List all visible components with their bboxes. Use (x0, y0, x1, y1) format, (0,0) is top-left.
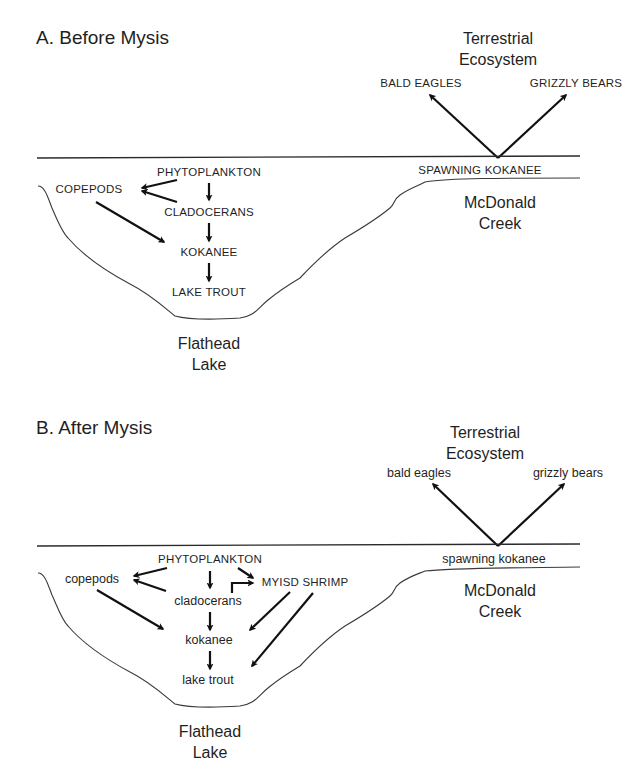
arrow-phyto-to-copepods (134, 568, 167, 576)
arrow-kokanee-to-bears (498, 95, 566, 158)
terrestrial-label: Terrestrial (463, 30, 533, 47)
arrow-copepods-to-kokanee (96, 202, 164, 242)
node-kokanee: KOKANEE (180, 246, 237, 258)
node-phytoplankton: PHYTOPLANKTON (158, 553, 262, 565)
panel-title: B. After Mysis (36, 417, 152, 438)
arrow-cladocerans-to-copepods (134, 580, 166, 591)
arrow-shrimp-to-lake-trout (252, 593, 313, 666)
arrow-cladocerans-to-shrimp (232, 583, 253, 593)
arrow-phyto-to-copepods (142, 180, 177, 188)
node-bald-eagles: BALD EAGLES (380, 77, 462, 89)
lake-label: Flathead (179, 723, 241, 740)
node-bald-eagles: bald eagles (387, 466, 451, 480)
node-kokanee: kokanee (185, 633, 232, 647)
terrestrial-label: Terrestrial (450, 424, 520, 441)
creek-label-line2: Creek (479, 603, 523, 620)
food-web-diagram: A. Before Mysis Terrestrial Ecosystem BA… (0, 0, 642, 783)
node-grizzly-bears: GRIZZLY BEARS (530, 77, 622, 89)
creek-label-line2: Creek (479, 215, 523, 232)
panel-title: A. Before Mysis (36, 27, 169, 48)
lake-label-line2: Lake (193, 744, 228, 761)
ecosystem-label: Ecosystem (459, 51, 537, 68)
node-lake-trout: lake trout (182, 673, 234, 687)
node-copepods: COPEPODS (56, 183, 123, 195)
node-cladocerans: CLADOCERANS (164, 206, 254, 218)
node-phytoplankton: PHYTOPLANKTON (157, 166, 261, 178)
node-cladocerans: cladocerans (174, 594, 241, 608)
node-lake-trout: LAKE TROUT (172, 286, 246, 298)
arrow-cladocerans-to-copepods (142, 191, 177, 202)
ecosystem-label: Ecosystem (446, 445, 524, 462)
panel-after-mysis: B. After Mysis Terrestrial Ecosystem bal… (36, 417, 603, 761)
creek-label: McDonald (464, 194, 536, 211)
arrow-copepods-to-kokanee (97, 590, 163, 629)
node-copepods: copepods (65, 572, 119, 586)
arrow-kokanee-to-eagles (430, 95, 498, 158)
lake-label: Flathead (178, 335, 240, 352)
node-spawning-kokanee: SPAWNING KOKANEE (418, 164, 541, 176)
node-mysid-shrimp: MYISD SHRIMP (262, 576, 349, 588)
node-spawning-kokanee: spawning kokanee (442, 552, 546, 566)
arrow-phyto-to-shrimp (238, 568, 253, 578)
arrow-shrimp-to-kokanee (250, 592, 290, 630)
lake-label-line2: Lake (192, 356, 227, 373)
creek-label: McDonald (464, 582, 536, 599)
panel-before-mysis: A. Before Mysis Terrestrial Ecosystem BA… (36, 27, 622, 373)
node-grizzly-bears: grizzly bears (533, 466, 603, 480)
arrow-kokanee-to-bears (498, 484, 564, 546)
arrow-kokanee-to-eagles (433, 484, 498, 546)
